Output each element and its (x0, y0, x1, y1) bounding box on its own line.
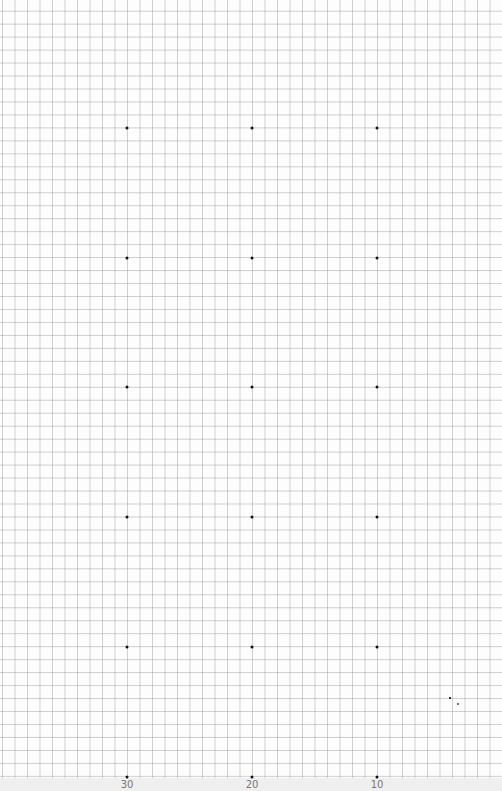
data-point (126, 127, 129, 130)
data-point (251, 257, 254, 260)
data-point (376, 646, 379, 649)
x-tick-label-30: 30 (121, 779, 134, 790)
data-point (376, 127, 379, 130)
data-point (376, 516, 379, 519)
data-point (126, 257, 129, 260)
data-point (251, 516, 254, 519)
data-point (126, 646, 129, 649)
data-point (251, 386, 254, 389)
data-point (251, 646, 254, 649)
cursor-mark-icon (449, 697, 461, 707)
data-point (376, 386, 379, 389)
graph-paper-canvas: 30 20 10 (0, 0, 502, 791)
x-tick-label-20: 20 (246, 779, 259, 790)
data-point (376, 257, 379, 260)
x-tick-label-10: 10 (371, 779, 384, 790)
data-point (126, 516, 129, 519)
data-point (251, 127, 254, 130)
grid-background (0, 0, 502, 778)
data-point (126, 386, 129, 389)
